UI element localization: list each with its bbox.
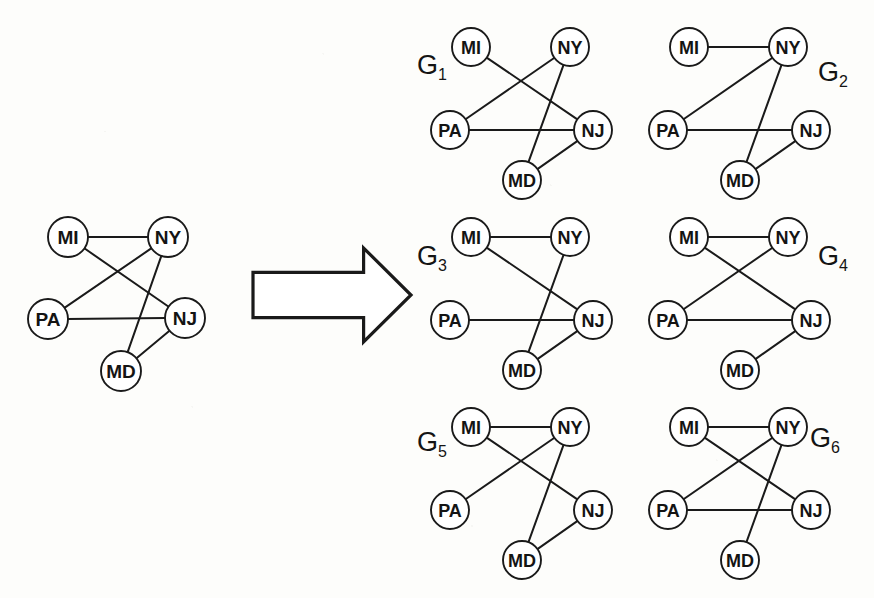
graph-label-sub-G3: 3 xyxy=(438,257,447,274)
graph-label-main-G2: G xyxy=(818,57,839,87)
node-NJ[interactable]: NJ xyxy=(792,301,830,339)
graph-label-main-G3: G xyxy=(417,241,438,271)
node-MI[interactable]: MI xyxy=(452,218,490,256)
node-label-NJ: NJ xyxy=(799,311,822,331)
graph-label-G1: G1 xyxy=(417,50,447,83)
edge-NJ-MD xyxy=(537,520,579,549)
graph-label-sub-G6: 6 xyxy=(831,439,840,456)
edge-MI-NJ xyxy=(486,437,578,500)
node-MD[interactable]: MD xyxy=(721,161,759,199)
node-label-PA: PA xyxy=(36,309,61,330)
result-graph-G6: MINYPANJMDG6 xyxy=(649,408,840,579)
node-MI[interactable]: MI xyxy=(670,218,708,256)
edge-NY-MD xyxy=(746,64,782,163)
node-NY[interactable]: NY xyxy=(551,218,589,256)
node-label-NY: NY xyxy=(775,418,800,438)
node-NJ[interactable]: NJ xyxy=(165,298,205,338)
node-NY[interactable]: NY xyxy=(551,28,589,66)
graph-label-sub-G1: 1 xyxy=(438,66,447,83)
transformation-arrow xyxy=(253,248,411,342)
node-MI[interactable]: MI xyxy=(670,28,708,66)
node-label-MD: MD xyxy=(508,361,536,381)
node-NY[interactable]: NY xyxy=(551,408,589,446)
edge-NY-MD xyxy=(528,64,564,163)
node-PA[interactable]: PA xyxy=(28,299,68,339)
node-label-MI: MI xyxy=(679,228,699,248)
graph-label-main-G4: G xyxy=(818,241,839,271)
node-PA[interactable]: PA xyxy=(431,301,469,339)
edge-MI-NJ xyxy=(486,247,578,310)
node-label-MD: MD xyxy=(106,361,136,382)
node-label-NY: NY xyxy=(775,38,800,58)
node-PA[interactable]: PA xyxy=(649,301,687,339)
node-NY[interactable]: NY xyxy=(769,28,807,66)
g1-nodes: MINYPANJMD xyxy=(431,28,612,199)
node-label-PA: PA xyxy=(656,501,680,521)
source-edges xyxy=(64,237,171,359)
g4-edges xyxy=(683,237,797,360)
node-PA[interactable]: PA xyxy=(431,111,469,149)
node-MI[interactable]: MI xyxy=(452,28,490,66)
graph-label-G5: G5 xyxy=(417,427,447,460)
node-MD[interactable]: MD xyxy=(503,541,541,579)
node-label-MI: MI xyxy=(461,228,481,248)
graph-label-main-G1: G xyxy=(417,50,438,80)
node-MD[interactable]: MD xyxy=(503,351,541,389)
g4-nodes: MINYPANJMD xyxy=(649,218,830,389)
edge-NJ-MD xyxy=(755,330,797,359)
node-label-MI: MI xyxy=(679,418,699,438)
node-NY[interactable]: NY xyxy=(148,217,188,257)
edge-MI-NJ xyxy=(84,248,170,307)
graph-label-G3: G3 xyxy=(417,241,447,274)
edge-NJ-MD xyxy=(537,330,579,359)
node-PA[interactable]: PA xyxy=(431,491,469,529)
node-NJ[interactable]: NJ xyxy=(574,491,612,529)
node-label-MI: MI xyxy=(461,38,481,58)
node-MI[interactable]: MI xyxy=(48,217,88,257)
source-nodes: MINYPANJMD xyxy=(28,217,205,391)
edge-NJ-MD xyxy=(755,140,797,169)
graph-label-G6: G6 xyxy=(810,423,840,456)
node-NJ[interactable]: NJ xyxy=(792,111,830,149)
node-MD[interactable]: MD xyxy=(721,351,759,389)
node-label-PA: PA xyxy=(656,121,680,141)
node-MD[interactable]: MD xyxy=(101,351,141,391)
g1-edges xyxy=(465,57,579,170)
node-label-NY: NY xyxy=(557,418,582,438)
node-PA[interactable]: PA xyxy=(649,491,687,529)
node-MD[interactable]: MD xyxy=(503,161,541,199)
node-NY[interactable]: NY xyxy=(769,408,807,446)
source-graph: MINYPANJMD xyxy=(28,217,205,391)
node-label-PA: PA xyxy=(656,311,680,331)
node-label-NJ: NJ xyxy=(799,121,822,141)
edge-PA-NJ xyxy=(67,318,166,319)
g6-nodes: MINYPANJMD xyxy=(649,408,830,579)
node-label-MI: MI xyxy=(679,38,699,58)
node-label-NY: NY xyxy=(155,227,182,248)
node-MI[interactable]: MI xyxy=(670,408,708,446)
node-label-MI: MI xyxy=(461,418,481,438)
graph-label-G2: G2 xyxy=(818,57,848,90)
graph-label-sub-G5: 5 xyxy=(438,443,447,460)
result-graph-G2: MINYPANJMDG2 xyxy=(649,28,848,199)
node-PA[interactable]: PA xyxy=(649,111,687,149)
node-MD[interactable]: MD xyxy=(721,541,759,579)
node-NY[interactable]: NY xyxy=(769,218,807,256)
graph-label-sub-G2: 2 xyxy=(839,73,848,90)
node-label-NJ: NJ xyxy=(581,311,604,331)
edge-PA-NY xyxy=(64,248,153,309)
node-label-PA: PA xyxy=(438,311,462,331)
graph-figure: MINYPANJMD MINYPANJMDG1MINYPANJMDG2MINYP… xyxy=(0,0,874,598)
result-graph-G1: MINYPANJMDG1 xyxy=(417,28,612,199)
edge-PA-NY xyxy=(683,437,773,500)
edge-NY-MD xyxy=(528,254,564,353)
g3-edges xyxy=(468,237,578,360)
edge-MI-NJ xyxy=(704,247,796,310)
node-NJ[interactable]: NJ xyxy=(574,301,612,339)
node-label-NY: NY xyxy=(775,228,800,248)
edge-MI-NJ xyxy=(704,437,796,500)
node-NJ[interactable]: NJ xyxy=(574,111,612,149)
edge-NY-MD xyxy=(127,255,161,353)
node-MI[interactable]: MI xyxy=(452,408,490,446)
node-NJ[interactable]: NJ xyxy=(792,491,830,529)
